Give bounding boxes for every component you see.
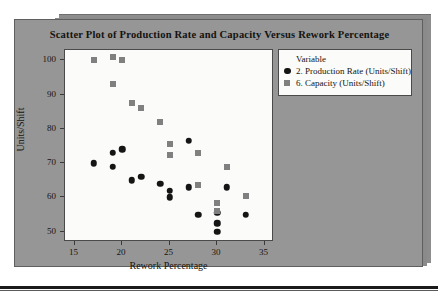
y-tick-label: 80 (30, 123, 56, 133)
legend-item-label: 6. Capacity (Units/Shift) (296, 78, 385, 88)
legend-swatch-circle-icon (284, 68, 296, 75)
x-tick-mark (121, 241, 122, 245)
plot-area (64, 49, 273, 241)
data-point-production-rate (223, 184, 230, 191)
legend-swatch-square-icon (284, 80, 296, 86)
filled-square-icon (284, 80, 290, 86)
y-tick-label: 90 (30, 89, 56, 99)
data-point-production-rate (166, 194, 173, 201)
data-point-capacity (91, 57, 97, 63)
x-tick-label: 30 (212, 247, 221, 257)
x-tick-mark (216, 241, 217, 245)
data-point-capacity (195, 150, 201, 156)
x-tick-mark (74, 241, 75, 245)
x-tick-label: 35 (259, 247, 268, 257)
legend-item-label: 2. Production Rate (Units/Shift) (296, 66, 411, 76)
data-point-capacity (157, 119, 163, 125)
data-point-production-rate (90, 160, 97, 167)
x-tick-mark (169, 241, 170, 245)
y-tick-label: 50 (30, 226, 56, 236)
screenshot-root: Scatter Plot of Production Rate and Capa… (0, 0, 438, 306)
x-tick-mark (264, 241, 265, 245)
data-point-capacity (224, 164, 230, 170)
data-point-production-rate (157, 180, 164, 187)
y-tick-label: 60 (30, 191, 56, 201)
data-point-production-rate (185, 184, 192, 191)
data-point-capacity (110, 81, 116, 87)
legend-item[interactable]: 6. Capacity (Units/Shift) (284, 78, 406, 88)
legend-title: Variable (296, 54, 406, 64)
data-point-production-rate (138, 174, 145, 181)
bottom-divider-rule-secondary (0, 290, 438, 291)
data-point-production-rate (109, 163, 116, 170)
data-point-capacity (214, 200, 220, 206)
data-point-production-rate (119, 146, 126, 153)
filled-circle-icon (284, 68, 291, 75)
data-point-capacity (195, 182, 201, 188)
data-point-production-rate (242, 211, 249, 218)
y-tick-label: 70 (30, 157, 56, 167)
plot-points-layer (65, 50, 272, 240)
x-tick-label: 15 (69, 247, 78, 257)
data-point-capacity (167, 141, 173, 147)
data-point-capacity (110, 54, 116, 60)
figure-panel: Scatter Plot of Production Rate and Capa… (14, 19, 423, 267)
data-point-capacity (167, 152, 173, 158)
data-point-production-rate (185, 138, 192, 145)
y-axis-title: Units/Shift (15, 108, 26, 152)
data-point-capacity (119, 57, 125, 63)
data-point-production-rate (128, 177, 135, 184)
chart-title: Scatter Plot of Production Rate and Capa… (15, 29, 424, 40)
x-tick-label: 20 (117, 247, 126, 257)
data-point-production-rate (166, 187, 173, 194)
data-point-capacity (138, 105, 144, 111)
data-point-capacity (129, 100, 135, 106)
legend-entries: 2. Production Rate (Units/Shift)6. Capac… (284, 66, 406, 88)
data-point-capacity (243, 193, 249, 199)
legend-item[interactable]: 2. Production Rate (Units/Shift) (284, 66, 406, 76)
data-point-capacity (214, 208, 220, 214)
bottom-divider-rule (0, 286, 438, 289)
data-point-production-rate (214, 220, 221, 227)
data-point-production-rate (214, 228, 221, 235)
y-tick-label: 100 (30, 54, 56, 64)
legend: Variable 2. Production Rate (Units/Shift… (278, 49, 412, 96)
x-axis-title: Rework Percentage (64, 260, 273, 271)
x-tick-label: 25 (164, 247, 173, 257)
data-point-production-rate (109, 150, 116, 157)
data-point-production-rate (195, 211, 202, 218)
